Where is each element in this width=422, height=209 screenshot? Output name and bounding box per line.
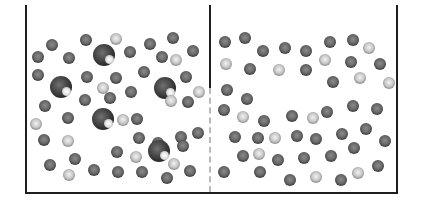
medium-particle xyxy=(336,128,348,140)
medium-particle xyxy=(321,106,333,118)
medium-particle xyxy=(62,112,74,124)
medium-particle xyxy=(298,152,310,164)
medium-particle xyxy=(80,34,92,46)
medium-particle xyxy=(258,115,270,127)
particle-highlight xyxy=(105,55,114,64)
container-right-wall xyxy=(396,5,398,194)
medium-particle xyxy=(81,71,93,83)
small-particle xyxy=(352,167,364,179)
medium-particle xyxy=(184,165,196,177)
small-particle xyxy=(193,86,205,98)
medium-particle xyxy=(241,93,253,105)
small-particle xyxy=(383,77,395,89)
medium-particle xyxy=(345,56,357,68)
small-particle xyxy=(253,148,265,160)
small-particle xyxy=(110,33,122,45)
medium-particle xyxy=(335,174,347,186)
medium-particle xyxy=(348,142,360,154)
medium-particle xyxy=(244,63,256,75)
medium-particle xyxy=(284,174,296,186)
small-particle xyxy=(269,132,281,144)
small-particle xyxy=(273,64,285,76)
medium-particle xyxy=(39,100,51,112)
medium-particle xyxy=(257,45,269,57)
medium-particle xyxy=(192,127,204,139)
small-particle xyxy=(170,54,182,66)
medium-particle xyxy=(177,140,189,152)
medium-particle xyxy=(347,34,359,46)
medium-particle xyxy=(187,45,199,57)
medium-particle xyxy=(111,146,123,158)
medium-particle xyxy=(112,166,124,178)
medium-particle xyxy=(138,66,150,78)
small-particle xyxy=(319,54,331,66)
small-particle xyxy=(168,158,180,170)
medium-particle xyxy=(237,150,249,162)
medium-particle xyxy=(131,113,143,125)
medium-particle xyxy=(125,86,137,98)
medium-particle xyxy=(300,45,312,57)
medium-particle xyxy=(136,166,148,178)
medium-particle xyxy=(156,51,168,63)
small-particle xyxy=(363,42,375,54)
medium-particle xyxy=(167,32,179,44)
medium-particle xyxy=(218,166,230,178)
medium-particle xyxy=(69,153,81,165)
medium-particle xyxy=(239,32,251,44)
medium-particle xyxy=(310,133,322,145)
medium-particle xyxy=(347,100,359,112)
medium-particle xyxy=(180,71,192,83)
medium-particle xyxy=(324,36,336,48)
medium-particle xyxy=(379,135,391,147)
medium-particle xyxy=(252,132,264,144)
partition-solid-segment xyxy=(209,5,211,88)
particle-highlight xyxy=(160,151,169,160)
container-left-wall xyxy=(25,5,27,194)
medium-particle xyxy=(360,123,372,135)
medium-particle xyxy=(279,42,291,54)
small-particle xyxy=(307,112,319,124)
medium-particle xyxy=(218,104,230,116)
medium-particle xyxy=(254,166,266,178)
medium-particle xyxy=(374,58,386,70)
small-particle xyxy=(220,58,232,70)
particle-highlight xyxy=(104,119,113,128)
medium-particle xyxy=(291,130,303,142)
medium-particle xyxy=(286,110,298,122)
medium-particle xyxy=(372,160,384,172)
small-particle xyxy=(63,169,75,181)
medium-particle xyxy=(327,76,339,88)
small-particle xyxy=(310,171,322,183)
two-compartment-particle-diagram xyxy=(0,0,422,209)
medium-particle xyxy=(300,64,312,76)
large-particle xyxy=(92,108,114,130)
medium-particle xyxy=(161,172,173,184)
medium-particle xyxy=(38,134,50,146)
medium-particle xyxy=(124,46,136,58)
small-particle xyxy=(117,114,129,126)
medium-particle xyxy=(46,39,58,51)
medium-particle xyxy=(32,69,44,81)
medium-particle xyxy=(88,164,100,176)
large-particle xyxy=(93,44,115,66)
medium-particle xyxy=(133,132,145,144)
small-particle xyxy=(237,111,249,123)
medium-particle xyxy=(79,94,91,106)
partition-dashed-segment xyxy=(209,88,211,192)
medium-particle xyxy=(104,92,116,104)
medium-particle xyxy=(144,38,156,50)
medium-particle xyxy=(272,154,284,166)
medium-particle xyxy=(221,84,233,96)
medium-particle xyxy=(219,36,231,48)
medium-particle xyxy=(44,159,56,171)
small-particle xyxy=(165,95,177,107)
medium-particle xyxy=(182,96,194,108)
small-particle xyxy=(354,72,366,84)
container-bottom-wall xyxy=(25,192,398,194)
medium-particle xyxy=(110,72,122,84)
small-particle xyxy=(30,118,42,130)
large-particle xyxy=(148,140,170,162)
small-particle xyxy=(130,151,142,163)
medium-particle xyxy=(371,103,383,115)
medium-particle xyxy=(229,131,241,143)
